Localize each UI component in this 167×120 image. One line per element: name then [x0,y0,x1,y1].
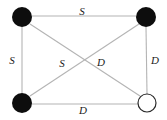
node-bottom-left [12,93,32,113]
edge-label-top: S [79,6,85,17]
graph-canvas [0,0,167,120]
edge-label-left: S [9,55,15,66]
edge-label-bottom: D [79,105,87,116]
edge-label-right: D [151,55,159,66]
edge-layer [22,16,147,104]
edge-label-diagonal-right: D [97,57,105,68]
graph-diagram: S S D D S D [0,0,167,120]
node-top-left [12,7,32,27]
node-top-right [136,7,156,27]
edge-label-diagonal-left: S [59,58,65,69]
edge-right [146,27,147,94]
node-bottom-right [138,94,156,112]
